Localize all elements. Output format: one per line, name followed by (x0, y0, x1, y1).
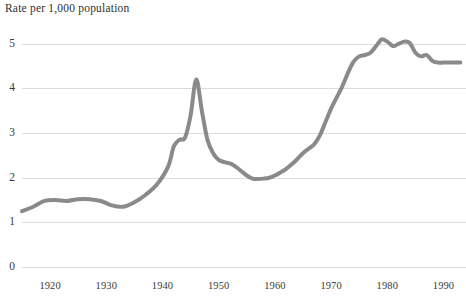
y-tick-label-4: 4 (0, 82, 15, 94)
x-tick-label-1930: 1930 (86, 281, 126, 292)
x-tick-label-1950: 1950 (199, 281, 239, 292)
plot-area (22, 26, 466, 267)
series-path-rate-per-1000 (22, 39, 460, 211)
x-tick-label-1920: 1920 (30, 281, 70, 292)
x-tick-label-1970: 1970 (311, 281, 351, 292)
y-tick-label-5: 5 (0, 38, 15, 50)
y-tick-label-1: 1 (0, 216, 15, 228)
x-tick-label-1960: 1960 (255, 281, 295, 292)
y-tick-label-3: 3 (0, 127, 15, 139)
y-tick-label-2: 2 (0, 172, 15, 184)
x-tick-label-1980: 1980 (367, 281, 407, 292)
data-series-line (22, 26, 466, 267)
y-tick-label-0: 0 (0, 261, 15, 273)
gridline-y-0 (22, 267, 466, 268)
x-tick-label-1940: 1940 (143, 281, 183, 292)
y-axis-title: Rate per 1,000 population (5, 2, 129, 14)
x-tick-label-1990: 1990 (424, 281, 464, 292)
chart-container: Rate per 1,000 population 012345 1920193… (0, 0, 466, 303)
